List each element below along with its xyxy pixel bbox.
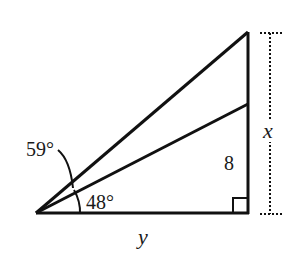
angle-label-59: 59° [26,138,54,160]
angle-label-48: 48° [86,191,114,213]
side-label-y: y [136,224,148,249]
side-label-8: 8 [224,152,234,174]
inner-hypotenuse [36,104,248,213]
outer-hypotenuse [36,32,248,213]
angle-arc-48 [74,190,80,214]
side-label-x: x [262,118,273,143]
right-angle-marker [233,198,248,213]
triangle-diagram: 59° 48° 8 x y [0,0,297,267]
